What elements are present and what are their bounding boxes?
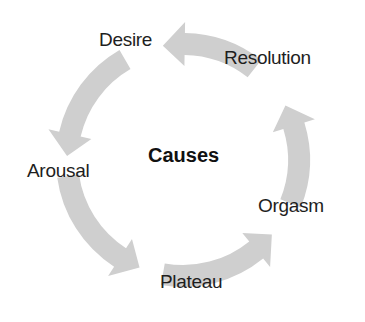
- stage-label-desire: Desire: [99, 30, 152, 49]
- center-label: Causes: [148, 145, 219, 165]
- stage-label-arousal: Arousal: [27, 161, 89, 180]
- arrow-orgasm-to-resolution: [273, 106, 315, 208]
- arrow-arousal-to-plateau: [57, 175, 139, 276]
- stage-label-resolution: Resolution: [224, 48, 311, 67]
- arrow-desire-to-arousal: [48, 50, 130, 156]
- stage-label-plateau: Plateau: [160, 272, 222, 291]
- stage-label-orgasm: Orgasm: [258, 196, 324, 215]
